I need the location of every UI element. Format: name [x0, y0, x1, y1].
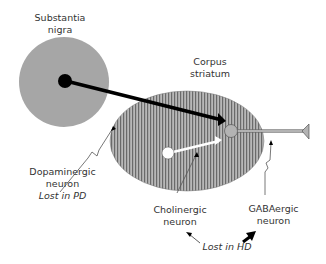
cholinergic-soma — [162, 147, 174, 159]
corpus-striatum-region — [110, 91, 264, 191]
label-cholinergic-neuron: Cholinergic neuron — [140, 204, 220, 228]
label-corpus-striatum: Corpus striatum — [175, 56, 245, 80]
label-gabaergic-neuron: GABAergic neuron — [236, 203, 311, 227]
label-substantia-nigra: Substantia nigra — [20, 12, 100, 36]
gabaergic-terminal — [302, 124, 309, 139]
dopaminergic-soma — [58, 74, 72, 88]
label-lost-in-hd: Lost in HD — [192, 241, 262, 253]
label-lost-in-pd: Lost in PD — [20, 190, 105, 202]
gabaergic-soma — [225, 125, 238, 138]
label-dopaminergic-neuron: Dopaminergic neuron Lost in PD — [20, 166, 105, 202]
gabaergic-pointer — [265, 143, 271, 195]
